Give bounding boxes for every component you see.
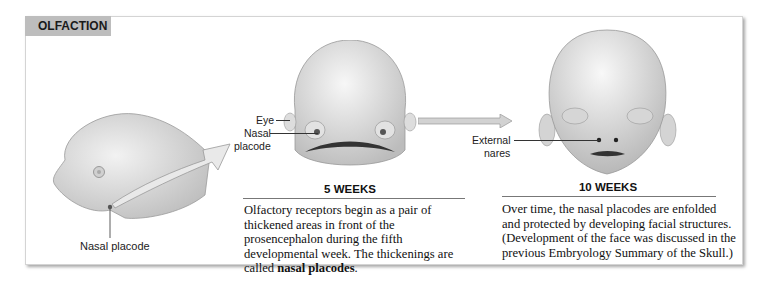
embryo-10-weeks-illustration: [535, 28, 680, 176]
stage-10-weeks-rule: [502, 196, 716, 197]
progression-arrow-icon: [418, 114, 513, 128]
external-nares-leader-line: [514, 140, 600, 141]
side-nasal-placode-label: Nasal placode: [80, 240, 150, 252]
stage-10-weeks-title: 10 WEEKS: [563, 181, 653, 193]
nasal-placode-leader-line: [270, 133, 318, 134]
eye-label: Eye: [256, 114, 274, 126]
nasal-placodes-term: nasal placodes: [277, 261, 354, 275]
nasal-placode-label-line1: Nasal: [244, 127, 271, 139]
stage-5-weeks-rule: [243, 198, 465, 199]
stage-5-weeks-description: Olfactory receptors begin as a pair of t…: [244, 203, 474, 276]
external-nares-label-line2: nares: [484, 147, 510, 159]
external-nares-label-line1: External: [472, 134, 511, 146]
section-title: OLFACTION: [25, 16, 111, 36]
stage-10-weeks-description: Over time, the nasal placodes are enfold…: [502, 202, 737, 260]
stage-5-weeks-title: 5 WEEKS: [300, 183, 400, 195]
eye-leader-line: [276, 120, 290, 121]
embryo-5-weeks-illustration: [280, 40, 420, 175]
embryo-side-view-illustration: [40, 100, 240, 240]
nasal-placode-label-line2: placode: [234, 140, 271, 152]
